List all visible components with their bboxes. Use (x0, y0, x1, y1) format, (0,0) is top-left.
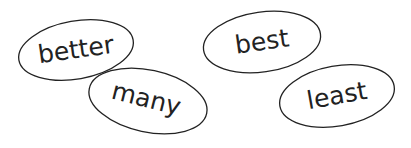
word-better: better (36, 30, 117, 69)
word-ovals-canvas: better many best least (0, 0, 411, 148)
word-many: many (109, 76, 184, 121)
word-best: best (233, 23, 291, 59)
word-least: least (305, 76, 370, 115)
